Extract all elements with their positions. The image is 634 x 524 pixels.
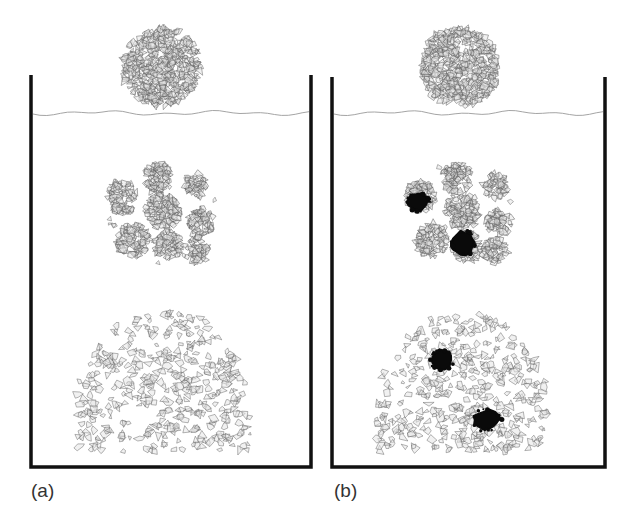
panel-b xyxy=(332,25,605,467)
dispersed-pile-b xyxy=(373,311,551,455)
intact-sphere-b xyxy=(419,25,500,109)
panel-label-b: (b) xyxy=(334,481,357,500)
water-line-a xyxy=(33,111,309,116)
water-line-b xyxy=(334,111,603,116)
fragmenting-cluster-a xyxy=(105,161,217,266)
fragmenting-cluster-b xyxy=(404,162,515,266)
figure-canvas xyxy=(0,0,634,524)
intact-sphere-a xyxy=(119,24,204,110)
container-b xyxy=(332,77,605,467)
panel-label-a: (a) xyxy=(31,481,54,500)
dispersed-pile-a xyxy=(73,309,253,455)
panel-a xyxy=(31,24,311,467)
